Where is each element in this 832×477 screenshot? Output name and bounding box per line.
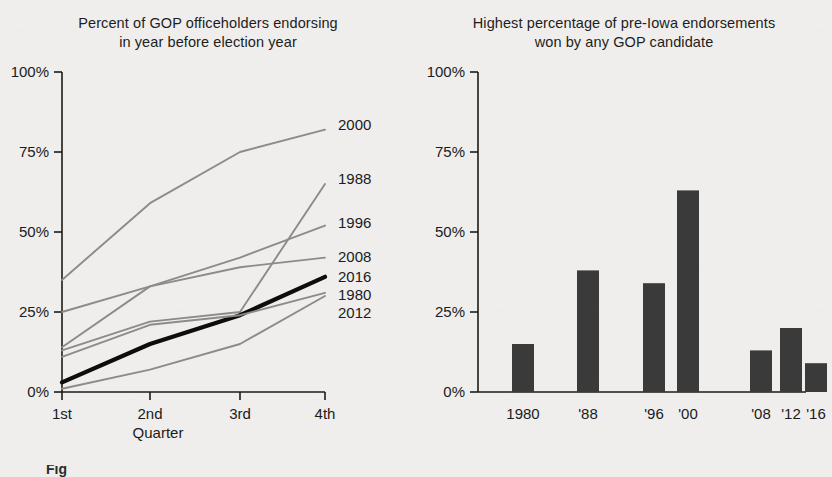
left-chart-xaxis-label: Quarter xyxy=(0,424,316,441)
left-series-label-2012: 2012 xyxy=(338,304,371,321)
left-y-tick-label: 100% xyxy=(11,63,49,80)
right-y-tick-label: 50% xyxy=(435,223,465,240)
left-x-tick-label: 3rd xyxy=(229,405,251,422)
left-series-label-2016: 2016 xyxy=(338,268,371,285)
right-bar-12 xyxy=(780,328,802,392)
right-x-tick-label: '88 xyxy=(578,405,598,422)
left-series-label-1988: 1988 xyxy=(338,170,371,187)
left-y-tick-label: 25% xyxy=(19,303,49,320)
left-series-label-2000: 2000 xyxy=(338,116,371,133)
right-x-tick-label: '96 xyxy=(644,405,664,422)
left-series-line-2000 xyxy=(62,130,325,280)
left-series-label-1980: 1980 xyxy=(338,286,371,303)
right-bar-08 xyxy=(750,350,772,392)
left-series-label-1996: 1996 xyxy=(338,214,371,231)
right-bar-96 xyxy=(643,283,665,392)
left-x-tick-label: 1st xyxy=(52,405,73,422)
right-x-tick-label: 1980 xyxy=(506,405,539,422)
right-x-tick-label: '08 xyxy=(751,405,771,422)
right-bar-16 xyxy=(805,363,827,392)
figure-caption-text: Fig xyxy=(46,465,86,476)
left-x-tick-label: 4th xyxy=(315,405,336,422)
right-y-tick-label: 0% xyxy=(443,383,465,400)
right-bar-1980 xyxy=(512,344,534,392)
left-chart-panel: Percent of GOP officeholders endorsing i… xyxy=(0,0,416,477)
right-y-tick-label: 100% xyxy=(427,63,465,80)
right-bar-88 xyxy=(577,270,599,392)
right-x-tick-label: '00 xyxy=(678,405,698,422)
right-chart-panel: Highest percentage of pre-Iowa endorseme… xyxy=(416,0,832,477)
right-y-tick-label: 75% xyxy=(435,143,465,160)
left-y-tick-label: 75% xyxy=(19,143,49,160)
left-x-tick-label: 2nd xyxy=(137,405,162,422)
right-bar-00 xyxy=(677,190,699,392)
left-series-label-2008: 2008 xyxy=(338,248,371,265)
left-y-tick-label: 50% xyxy=(19,223,49,240)
left-series-line-2016 xyxy=(62,277,325,383)
left-y-tick-label: 0% xyxy=(27,383,49,400)
right-chart-plot: 0%25%50%75%100%1980'88'96'00'08'12'16 xyxy=(416,0,832,477)
right-y-tick-label: 25% xyxy=(435,303,465,320)
left-series-line-1988 xyxy=(62,184,325,350)
right-x-tick-label: '16 xyxy=(806,405,826,422)
figure-caption: Fig xyxy=(46,465,86,477)
left-series-line-1980 xyxy=(62,293,325,357)
left-chart-plot: 0%25%50%75%100%1st2nd3rd4th2000198819962… xyxy=(0,0,416,477)
figure-page: Percent of GOP officeholders endorsing i… xyxy=(0,0,832,477)
right-x-tick-label: '12 xyxy=(781,405,801,422)
